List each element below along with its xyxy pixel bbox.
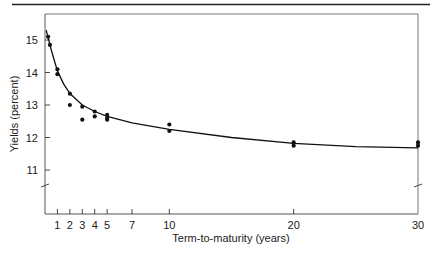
data-point xyxy=(416,144,420,148)
x-tick-label: 1 xyxy=(54,219,60,231)
x-ticks: 123457102030 xyxy=(54,209,424,231)
data-point xyxy=(167,122,171,126)
data-point xyxy=(46,35,50,39)
plot-frame xyxy=(41,14,422,214)
data-point xyxy=(292,144,296,148)
yield-curve-chart: 1112131415 123457102030 Yields (percent)… xyxy=(0,0,439,259)
x-tick-label: 5 xyxy=(104,219,110,231)
y-tick-label: 14 xyxy=(26,67,38,79)
data-point xyxy=(93,109,97,113)
data-point xyxy=(93,114,97,118)
y-tick-label: 12 xyxy=(26,132,38,144)
data-point xyxy=(55,67,59,71)
x-tick-label: 4 xyxy=(92,219,98,231)
x-tick-label: 3 xyxy=(79,219,85,231)
x-tick-label: 30 xyxy=(412,219,424,231)
data-point xyxy=(48,43,52,47)
x-tick-label: 2 xyxy=(67,219,73,231)
data-point xyxy=(55,72,59,76)
data-point xyxy=(68,103,72,107)
y-ticks: 1112131415 xyxy=(26,34,50,176)
y-tick-label: 13 xyxy=(26,99,38,111)
x-axis-title: Term-to-maturity (years) xyxy=(172,232,289,244)
fitted-yield-curve xyxy=(46,30,418,148)
data-point xyxy=(80,118,84,122)
data-point xyxy=(68,92,72,96)
y-axis-title: Yields (percent) xyxy=(8,76,20,153)
y-tick-label: 15 xyxy=(26,34,38,46)
data-points xyxy=(46,35,420,148)
x-tick-label: 10 xyxy=(163,219,175,231)
y-tick-label: 11 xyxy=(27,164,38,176)
x-tick-label: 7 xyxy=(129,219,135,231)
data-point xyxy=(80,105,84,109)
x-tick-label: 20 xyxy=(288,219,300,231)
data-point xyxy=(167,129,171,133)
data-point xyxy=(105,118,109,122)
